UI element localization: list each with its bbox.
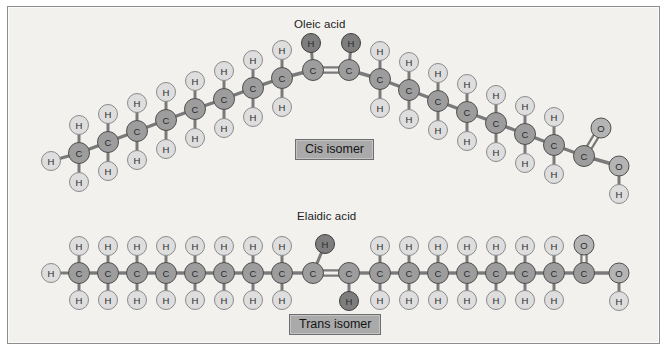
atom-carbon: C <box>339 60 360 81</box>
atom-hydrogen: H <box>371 42 390 61</box>
atom-hydrogen: H <box>371 237 390 256</box>
atom-carbon: C <box>69 263 90 284</box>
atom-hydrogen: H <box>516 237 535 256</box>
atom-hydrogen: H <box>99 162 118 181</box>
atom-hydrogen: H <box>186 72 205 91</box>
atom-carbon: C <box>156 263 177 284</box>
atom-hydrogen: H <box>99 237 118 256</box>
atom-carbon: C <box>339 263 360 284</box>
atom-carbon: C <box>428 263 449 284</box>
atom-hydrogen: H <box>215 62 234 81</box>
molecule-title-elaidic: Elaidic acid <box>297 210 356 222</box>
atom-hydrogen: H <box>545 291 564 310</box>
trans-isomer-label: Trans isomer <box>289 314 381 335</box>
atom-hydrogen: H <box>215 237 234 256</box>
atom-carbon: C <box>98 263 119 284</box>
atom-hydrogen: H <box>128 151 147 170</box>
atom-hydrogen-terminal: H <box>42 264 61 283</box>
atom-hydrogen: H <box>545 165 564 184</box>
atom-hydrogen: H <box>157 140 176 159</box>
atom-hydrogen: H <box>215 119 234 138</box>
atom-hydrogen: H <box>128 237 147 256</box>
atom-hydrogen: H <box>400 110 419 129</box>
atom-hydrogen: H <box>273 237 292 256</box>
atom-carbon: C <box>272 68 293 89</box>
atom-carbon: C <box>457 263 478 284</box>
atom-carbon: C <box>370 263 391 284</box>
atom-carbon: C <box>185 263 206 284</box>
atom-hydrogen: H <box>545 237 564 256</box>
atom-hydrogen-hydroxyl: H <box>610 292 629 311</box>
atom-hydrogen: H <box>400 53 419 72</box>
atom-carbon: C <box>272 263 293 284</box>
atom-hydrogen: H <box>371 291 390 310</box>
atom-carbon: C <box>303 263 324 284</box>
atom-hydrogen-hydroxyl: H <box>610 185 629 204</box>
atom-carbon: C <box>303 60 324 81</box>
atom-oxygen-hydroxyl: O <box>609 263 629 283</box>
atom-hydrogen: H <box>400 237 419 256</box>
atom-hydrogen: H <box>458 237 477 256</box>
atom-hydrogen-terminal: H <box>42 152 61 171</box>
atom-oxygen-carbonyl: O <box>591 118 611 138</box>
atom-hydrogen: H <box>273 291 292 310</box>
atom-hydrogen: H <box>70 116 89 135</box>
figure-root: HHHHHHHHHHHHHHHHHHHHHHHHHHHHHHHHHHOOCCCC… <box>0 0 667 351</box>
atom-hydrogen: H <box>157 83 176 102</box>
atom-hydrogen: H <box>429 121 448 140</box>
atom-hydrogen-highlighted: H <box>342 34 361 53</box>
atom-carbon: C <box>399 263 420 284</box>
atom-hydrogen: H <box>99 291 118 310</box>
atom-hydrogen: H <box>186 237 205 256</box>
atom-hydrogen: H <box>487 86 506 105</box>
atom-hydrogen: H <box>516 154 535 173</box>
atom-hydrogen: H <box>458 132 477 151</box>
atom-carbon: C <box>544 135 565 156</box>
atom-carbon: C <box>127 263 148 284</box>
atom-hydrogen: H <box>157 237 176 256</box>
atom-hydrogen: H <box>429 64 448 83</box>
molecule-title-oleic: Oleic acid <box>294 18 346 30</box>
atom-carbon: C <box>515 124 536 145</box>
atom-hydrogen: H <box>487 237 506 256</box>
atom-carbon: C <box>98 132 119 153</box>
atom-hydrogen: H <box>273 41 292 60</box>
atom-carbon: C <box>428 91 449 112</box>
atom-hydrogen: H <box>99 105 118 124</box>
atom-hydrogen: H <box>458 291 477 310</box>
atom-carbon-carboxyl: C <box>574 146 595 167</box>
atom-hydrogen: H <box>273 98 292 117</box>
atom-hydrogen: H <box>70 173 89 192</box>
atom-carbon: C <box>185 99 206 120</box>
atom-carbon: C <box>69 143 90 164</box>
atom-carbon: C <box>156 110 177 131</box>
atom-hydrogen: H <box>244 51 263 70</box>
atom-hydrogen: H <box>244 237 263 256</box>
atom-carbon-carboxyl: C <box>574 263 595 284</box>
atom-hydrogen: H <box>516 291 535 310</box>
atom-hydrogen: H <box>128 94 147 113</box>
atom-hydrogen: H <box>70 291 89 310</box>
atom-carbon: C <box>370 69 391 90</box>
atom-hydrogen: H <box>371 99 390 118</box>
atom-hydrogen: H <box>244 108 263 127</box>
oleic-acid-bonds <box>51 43 619 194</box>
atom-carbon: C <box>214 263 235 284</box>
atom-hydrogen-highlighted: H <box>316 235 335 254</box>
atom-hydrogen-highlighted: H <box>340 292 359 311</box>
atom-hydrogen: H <box>244 291 263 310</box>
oleic-acid-atoms: HHHHHHHHHHHHHHHHHHHHHHHHHHHHHHHHHHOOCCCC… <box>42 34 630 204</box>
atom-hydrogen-highlighted: H <box>302 34 321 53</box>
atom-carbon: C <box>127 121 148 142</box>
atom-hydrogen: H <box>487 143 506 162</box>
atom-carbon: C <box>399 80 420 101</box>
atom-hydrogen: H <box>487 291 506 310</box>
atom-hydrogen: H <box>70 237 89 256</box>
atom-carbon: C <box>457 102 478 123</box>
atom-carbon: C <box>243 78 264 99</box>
atom-hydrogen: H <box>157 291 176 310</box>
atom-hydrogen: H <box>186 129 205 148</box>
atom-carbon: C <box>486 113 507 134</box>
atom-hydrogen: H <box>429 291 448 310</box>
atom-hydrogen: H <box>458 75 477 94</box>
